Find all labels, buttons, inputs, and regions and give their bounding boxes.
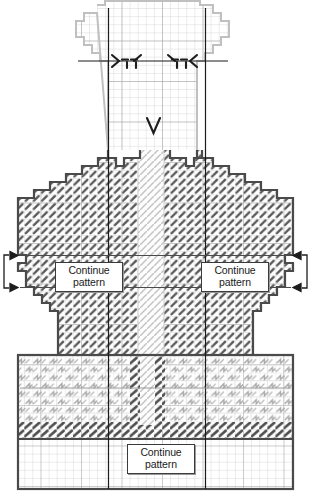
- continue-pattern-left: Continue pattern: [55, 262, 123, 292]
- repeat-bracket-left: [4, 252, 18, 292]
- yoke-region: [0, 0, 311, 160]
- chart-caption: [0, 487, 311, 499]
- continue-pattern-bottom: Continue pattern: [127, 444, 195, 474]
- center-front-band: [138, 145, 164, 360]
- continue-pattern-right: Continue pattern: [201, 262, 269, 292]
- pattern-chart: [0, 0, 311, 499]
- repeat-bracket-right: [293, 252, 307, 292]
- body-region: [0, 145, 311, 360]
- chart-canvas: [0, 0, 311, 499]
- hem-center-dashes: [130, 355, 140, 425]
